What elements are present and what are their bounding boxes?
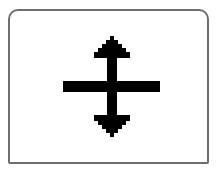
- row-resize-cursor-icon: [0, 0, 219, 176]
